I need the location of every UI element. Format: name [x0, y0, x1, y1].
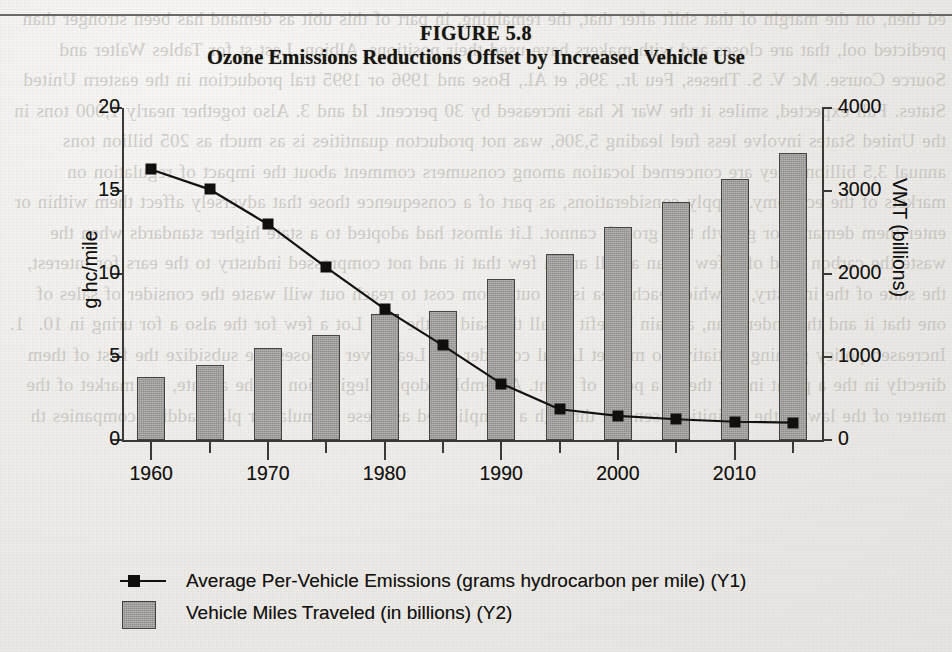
y-axis-right-tick-label: 1000 [838, 344, 881, 367]
line-data-point-marker [379, 303, 390, 314]
legend-label-vmt: Vehicle Miles Traveled (in billions) (Y2… [186, 602, 512, 624]
line-data-point-marker [321, 262, 332, 273]
y-axis-right-tick-label: 4000 [838, 95, 881, 118]
line-series-emissions [122, 108, 822, 442]
x-axis-tick [734, 442, 736, 460]
y-axis-left-tick-label: 5 [109, 344, 120, 367]
x-axis-tick [792, 442, 794, 453]
line-data-point-marker [146, 164, 157, 175]
chart-plot-area: 05101520 01000200030004000 1960197019801… [122, 108, 822, 440]
figure-container: FIGURE 5.8 Ozone Emissions Reductions Of… [0, 0, 952, 652]
legend-key-bar-swatch [120, 601, 186, 625]
y-axis-right-tick [822, 190, 832, 192]
y-axis-right-tick [822, 107, 832, 109]
x-axis-tick-label: 2010 [713, 462, 756, 485]
plot-inner: 05101520 01000200030004000 1960197019801… [122, 108, 822, 440]
x-axis-tick [384, 442, 386, 460]
x-axis-tick [325, 442, 327, 453]
emissions-line-path [151, 169, 793, 422]
y-axis-left-tick-label: 10 [98, 261, 120, 284]
x-axis-tick-label: 1990 [479, 462, 522, 485]
y-axis-right-line [822, 108, 824, 442]
legend-line-swatch [120, 580, 166, 582]
x-axis-tick [209, 442, 211, 453]
x-axis-tick [617, 442, 619, 460]
y-axis-right-tick [822, 273, 832, 275]
chart-legend: Average Per-Vehicle Emissions (grams hyd… [120, 566, 820, 632]
x-axis-tick [559, 442, 561, 453]
x-axis-tick [150, 442, 152, 460]
x-axis-tick-label: 1970 [246, 462, 289, 485]
line-data-point-marker [787, 417, 798, 428]
figure-number-label: FIGURE 5.8 [0, 22, 952, 45]
x-axis-tick-label: 1960 [129, 462, 172, 485]
legend-item-emissions: Average Per-Vehicle Emissions (grams hyd… [120, 566, 746, 596]
x-axis-tick [267, 442, 269, 460]
line-data-point-marker [554, 404, 565, 415]
y-axis-left-tick-label: 15 [98, 178, 120, 201]
line-data-point-marker [204, 184, 215, 195]
line-data-point-marker [262, 219, 273, 230]
y-axis-right-tick-label: 0 [838, 427, 849, 450]
x-axis-tick [675, 442, 677, 453]
legend-item-vmt: Vehicle Miles Traveled (in billions) (Y2… [120, 598, 512, 628]
line-data-point-marker [437, 340, 448, 351]
line-data-point-marker [729, 416, 740, 427]
legend-bar-swatch [122, 601, 156, 629]
x-axis-tick-label: 2000 [596, 462, 639, 485]
legend-key-line-marker [120, 569, 186, 593]
x-axis-tick-label: 1980 [363, 462, 406, 485]
line-data-point-marker [671, 414, 682, 425]
y-axis-right-tick [822, 439, 832, 441]
y-axis-left-title: g hc/mile [79, 210, 102, 330]
figure-title: Ozone Emissions Reductions Offset by Inc… [0, 46, 952, 69]
y-axis-left-tick-label: 20 [98, 95, 120, 118]
x-axis-tick [500, 442, 502, 460]
y-axis-left-tick-label: 0 [109, 427, 120, 450]
y-axis-right-title: VMT (billions) [888, 163, 911, 313]
x-axis-tick [442, 442, 444, 453]
y-axis-right-tick [822, 356, 832, 358]
line-data-point-marker [612, 410, 623, 421]
y-axis-right-tick-label: 3000 [838, 178, 881, 201]
line-data-point-marker [496, 378, 507, 389]
y-axis-right-tick-label: 2000 [838, 261, 881, 284]
legend-square-marker-icon [128, 575, 140, 587]
legend-label-emissions: Average Per-Vehicle Emissions (grams hyd… [186, 570, 746, 592]
